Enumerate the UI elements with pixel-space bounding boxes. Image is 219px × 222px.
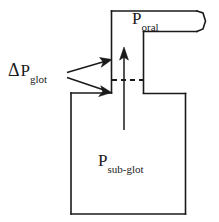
label-p-oral: Poral bbox=[132, 10, 159, 30]
label-p-sub-glot-subscript: sub-glot bbox=[107, 163, 143, 175]
label-p-sub-glot: Psub-glot bbox=[98, 152, 144, 172]
vocal-tract-diagram bbox=[0, 0, 219, 222]
label-delta-p-glot: ΔPglot bbox=[8, 61, 47, 82]
pointer-arrow-upper bbox=[67, 58, 112, 73]
upward-flow-arrow bbox=[120, 47, 129, 130]
label-p-oral-subscript: oral bbox=[141, 21, 158, 33]
label-delta-p-glot-base: P bbox=[21, 61, 30, 80]
label-delta-p-glot-subscript: glot bbox=[30, 73, 47, 85]
delta-symbol: Δ bbox=[8, 60, 21, 80]
figure-root: ΔPglot Poral Psub-glot bbox=[0, 0, 219, 222]
